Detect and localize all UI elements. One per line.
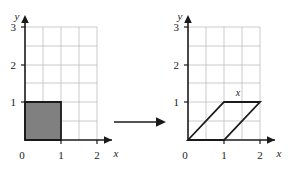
x-axis-label-before: x (113, 147, 119, 159)
ytick-label-after-3: 3 (174, 21, 180, 33)
xtick-label-after-1: 1 (221, 149, 227, 161)
xtick-label-before-0: 0 (19, 149, 25, 161)
panel-after: 3 2 1 0 1 2 x y x (174, 10, 282, 161)
y-axis-arrowhead-before (21, 15, 29, 23)
y-axis-label-after: y (177, 10, 183, 22)
y-axis-arrowhead-after (184, 15, 192, 23)
shape-square (25, 102, 61, 140)
ytick-label-after-1: 1 (174, 96, 180, 108)
xtick-label-before-2: 2 (94, 149, 100, 161)
ytick-label-after-2: 2 (174, 59, 180, 71)
ytick-label-before-1: 1 (11, 96, 17, 108)
xtick-label-before-1: 1 (58, 149, 64, 161)
parallelogram-label: x (235, 87, 241, 98)
xtick-label-after-0: 0 (182, 149, 188, 161)
x-axis-label-after: x (276, 147, 282, 159)
x-axis-arrowhead-before (104, 136, 112, 144)
transformation-arrow (114, 117, 166, 127)
ytick-label-before-3: 3 (11, 21, 17, 33)
y-axis-label-before: y (14, 10, 20, 22)
grid-after (188, 27, 260, 140)
xtick-label-after-2: 2 (257, 149, 263, 161)
x-axis-arrowhead-after (267, 136, 275, 144)
transformation-figure: 3 2 1 0 1 2 x y (0, 0, 300, 180)
axes-after (188, 18, 275, 140)
panel-before: 3 2 1 0 1 2 x y (11, 10, 119, 161)
ytick-label-before-2: 2 (11, 59, 17, 71)
ticks-after (184, 27, 260, 144)
